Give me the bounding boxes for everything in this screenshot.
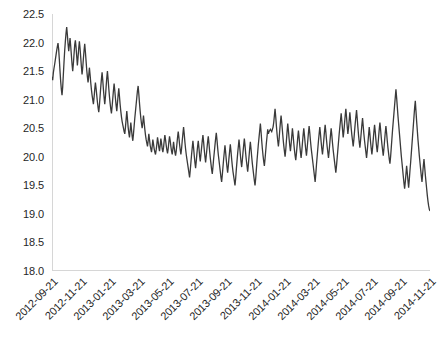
y-axis-tick-label: 19.0 [23, 208, 44, 219]
y-axis-tick-label: 18.5 [23, 237, 44, 248]
x-axis-tick-labels: 2012-09-212012-11-212013-01-212013-03-21… [0, 270, 445, 342]
y-axis-tick-label: 22.5 [23, 9, 44, 20]
y-axis-tick-label: 22.0 [23, 37, 44, 48]
chart-container: 18.018.519.019.520.020.521.021.522.022.5… [0, 0, 445, 342]
y-axis-tick-label: 21.5 [23, 66, 44, 77]
y-axis-tick-label: 20.5 [23, 123, 44, 134]
y-axis-tick-label: 19.5 [23, 180, 44, 191]
y-axis-tick-label: 21.0 [23, 94, 44, 105]
line-chart-plot [52, 14, 430, 271]
y-axis-tick-label: 20.0 [23, 151, 44, 162]
series-line-1 [52, 27, 430, 211]
